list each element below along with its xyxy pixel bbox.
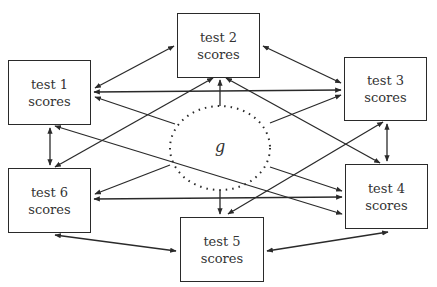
node-test4: test 4 scores <box>345 164 428 229</box>
node-test2-line1: test 2 <box>200 29 237 46</box>
node-test4-line2: scores <box>365 197 407 214</box>
node-test5-line1: test 5 <box>203 233 240 250</box>
node-test4-line1: test 4 <box>368 180 405 197</box>
node-test3-line2: scores <box>364 89 406 106</box>
node-test1-line2: scores <box>28 93 70 110</box>
node-test6-line1: test 6 <box>31 184 68 201</box>
node-test5-line2: scores <box>201 250 243 267</box>
node-test2: test 2 scores <box>177 13 260 78</box>
node-test3: test 3 scores <box>344 57 427 121</box>
node-test5: test 5 scores <box>180 217 264 282</box>
node-test6-line2: scores <box>28 201 70 218</box>
node-test1-line1: test 1 <box>31 76 68 93</box>
node-test1: test 1 scores <box>8 60 91 125</box>
node-test6: test 6 scores <box>8 168 91 233</box>
node-test3-line1: test 3 <box>367 72 404 89</box>
node-test2-line2: scores <box>197 46 239 63</box>
g-factor-label: g <box>215 137 225 156</box>
